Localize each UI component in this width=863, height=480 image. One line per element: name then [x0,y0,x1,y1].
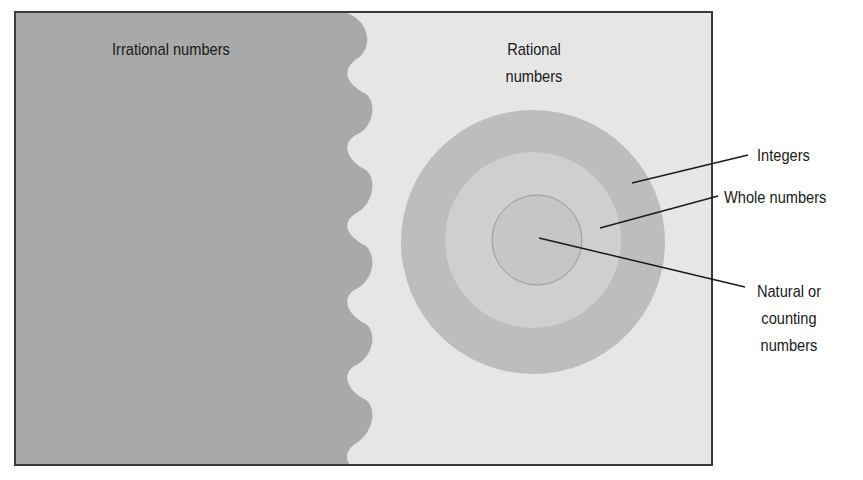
number-sets-diagram [0,0,863,480]
natural-numbers-label-line3: numbers [750,335,827,357]
natural-numbers-label-line2: counting [750,308,827,330]
natural-numbers-label-line1: Natural or [750,281,827,303]
rational-numbers-label-line1: Rational [493,39,576,61]
whole-numbers-label: Whole numbers [724,187,826,209]
irrational-numbers-label: Irrational numbers [112,39,230,61]
irrational-numbers-region [15,12,372,465]
natural-numbers-set [492,195,582,285]
integers-label: Integers [757,145,810,167]
rational-numbers-label-line2: numbers [493,66,576,88]
